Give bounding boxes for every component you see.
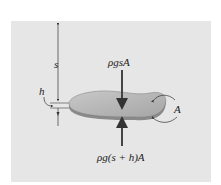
label-depth-s: s: [54, 59, 58, 70]
slab: [69, 91, 166, 120]
depth-dimension: [57, 24, 60, 126]
label-bottom-force: ρg(s + h)A: [97, 152, 145, 163]
thickness-markers: [44, 97, 70, 108]
label-top-force: ρgsA: [108, 57, 130, 68]
label-area-A: A: [174, 104, 181, 115]
label-thickness-h: h: [39, 86, 45, 97]
